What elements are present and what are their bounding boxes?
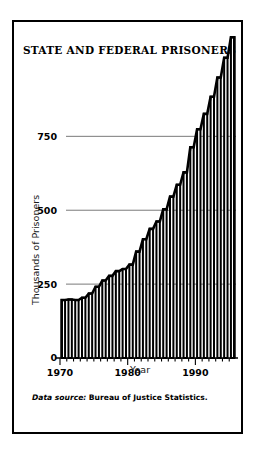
bar bbox=[143, 239, 146, 358]
bar bbox=[75, 300, 78, 358]
source-prefix: Data source: bbox=[32, 393, 86, 402]
bar bbox=[156, 221, 159, 358]
bar bbox=[68, 299, 71, 358]
source-note: Data source: Bureau of Justice Statistic… bbox=[32, 393, 237, 402]
bar bbox=[163, 209, 166, 358]
bar bbox=[109, 276, 112, 358]
chart-plot-area: Thousands of Prisoners 0250500750 197019… bbox=[14, 22, 245, 436]
bar bbox=[211, 97, 214, 358]
bar bbox=[136, 252, 139, 358]
figure-canvas: STATE AND FEDERAL PRISONERS Thousands of… bbox=[0, 0, 259, 458]
chart-frame: STATE AND FEDERAL PRISONERS Thousands of… bbox=[12, 20, 243, 434]
y-tick-label: 250 bbox=[37, 279, 57, 290]
bar bbox=[82, 298, 85, 358]
bar bbox=[150, 229, 153, 358]
source-text: Bureau of Justice Statistics. bbox=[89, 393, 208, 402]
bar bbox=[217, 78, 220, 358]
bar bbox=[177, 185, 180, 358]
bar bbox=[197, 129, 200, 358]
bar bbox=[184, 172, 187, 358]
bar bbox=[204, 114, 207, 358]
bar bbox=[190, 147, 193, 358]
bar bbox=[116, 271, 119, 358]
x-axis-tick-labels: 197019801990 bbox=[47, 367, 209, 378]
x-tick-label: 1970 bbox=[47, 367, 74, 378]
bar bbox=[102, 281, 105, 358]
bar bbox=[96, 287, 99, 358]
bar bbox=[129, 265, 132, 358]
bar bbox=[89, 294, 92, 358]
bar bbox=[170, 197, 173, 358]
bar bbox=[123, 269, 126, 358]
series-outline bbox=[62, 37, 235, 358]
y-tick-label: 500 bbox=[37, 205, 57, 216]
bar-series bbox=[62, 37, 235, 358]
x-axis-title: Year bbox=[129, 364, 150, 375]
x-tick-label: 1990 bbox=[182, 367, 209, 378]
y-tick-label: 750 bbox=[37, 131, 57, 142]
bar bbox=[224, 58, 227, 358]
